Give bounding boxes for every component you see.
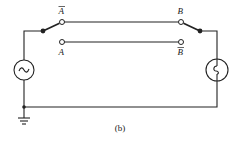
right-switch-blade [184, 23, 201, 31]
wire-bottom-return [24, 81, 217, 107]
left-switch[interactable] [41, 23, 60, 33]
label-a: A [58, 47, 65, 57]
contact-a [60, 40, 65, 45]
label-b: B [178, 6, 184, 16]
wire-right-top [200, 31, 217, 59]
contact-b [179, 20, 184, 25]
label-b-bar: B [178, 47, 184, 57]
circuit-diagram: A A B B (b) [0, 0, 241, 142]
left-switch-blade [43, 23, 60, 31]
label-a-bar: A [58, 6, 65, 16]
ac-source-icon [14, 60, 34, 80]
right-switch[interactable] [184, 23, 203, 33]
lamp-icon [206, 59, 228, 81]
contact-a-bar [60, 20, 65, 25]
ground-icon [18, 118, 30, 124]
contact-b-bar [179, 40, 184, 45]
wire-left-top [24, 31, 43, 60]
figure-caption: (b) [115, 123, 126, 133]
